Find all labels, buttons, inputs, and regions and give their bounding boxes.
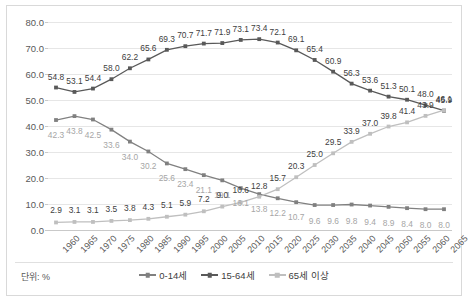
series-line-2	[56, 110, 444, 222]
series-marker	[424, 207, 428, 211]
series-marker	[220, 205, 224, 209]
series-marker	[54, 221, 58, 225]
series-marker	[368, 204, 372, 208]
series-line-0	[56, 116, 444, 209]
plot-area: 0.010.020.030.040.050.060.070.080.0 42.3…	[48, 22, 452, 230]
series-marker	[54, 86, 58, 90]
x-axis-tick-label: 2000	[208, 233, 229, 254]
series-marker	[110, 128, 114, 132]
x-axis-tick-label: 2045	[375, 233, 396, 254]
series-marker	[276, 187, 280, 191]
x-axis-tick-label: 2015	[264, 233, 285, 254]
series-marker	[313, 203, 317, 207]
series-marker	[294, 200, 298, 204]
series-line-1	[56, 39, 444, 111]
series-marker	[239, 201, 243, 205]
series-marker	[146, 58, 150, 62]
series-marker	[313, 58, 317, 62]
x-axis-tick-label: 2025	[301, 233, 322, 254]
series-marker	[202, 209, 206, 213]
series-marker	[73, 90, 77, 94]
series-marker	[276, 196, 280, 200]
series-marker	[405, 206, 409, 210]
legend-item-2[interactable]: 65세 이상	[269, 268, 329, 282]
y-axis-tick-label: 10.0	[26, 199, 45, 210]
series-marker	[165, 215, 169, 219]
x-axis-tick-label: 1970	[97, 233, 118, 254]
x-axis-tick-label: 2010	[245, 233, 266, 254]
x-axis-tick-label: 1965	[79, 233, 100, 254]
series-marker	[331, 70, 335, 74]
footer-divider	[15, 262, 453, 263]
series-marker	[387, 95, 391, 99]
x-axis-tick-label: 2005	[227, 233, 248, 254]
series-marker	[424, 114, 428, 118]
series-marker	[202, 173, 206, 177]
x-axis-tick-label: 2040	[356, 233, 377, 254]
legend-item-1[interactable]: 15-64세	[201, 268, 254, 282]
series-marker	[331, 203, 335, 207]
series-marker	[110, 77, 114, 81]
x-axis-labels: 1960196519701975198019851990199520002005…	[48, 232, 452, 270]
series-marker	[313, 163, 317, 167]
y-axis-tick-label: 20.0	[26, 173, 45, 184]
gridline	[48, 230, 452, 231]
x-axis-tick-label: 1980	[134, 233, 155, 254]
series-marker	[165, 162, 169, 166]
x-axis-tick-label: 1995	[190, 233, 211, 254]
series-marker	[183, 213, 187, 217]
series-marker	[368, 89, 372, 93]
series-marker	[387, 125, 391, 129]
series-marker	[405, 98, 409, 102]
x-axis-tick-label: 1985	[153, 233, 174, 254]
legend-item-0[interactable]: 0-14세	[139, 268, 187, 282]
series-lines	[48, 22, 452, 230]
series-marker	[183, 167, 187, 171]
series-marker	[368, 132, 372, 136]
series-marker	[276, 41, 280, 45]
series-marker	[239, 38, 243, 42]
x-axis-tick-label: 1975	[116, 233, 137, 254]
legend-label: 0-14세	[159, 268, 187, 282]
series-marker	[350, 140, 354, 144]
series-marker	[220, 41, 224, 45]
x-axis-tick-label: 2065	[448, 233, 468, 254]
y-axis-tick-label: 0.0	[31, 225, 44, 236]
y-axis-tick-label: 50.0	[26, 95, 45, 106]
series-marker	[183, 44, 187, 48]
y-axis-tick-label: 80.0	[26, 17, 45, 28]
series-marker	[294, 48, 298, 52]
series-marker	[73, 114, 77, 118]
x-axis-tick-label: 2060	[430, 233, 451, 254]
series-marker	[146, 150, 150, 154]
series-marker	[405, 120, 409, 124]
series-marker	[91, 220, 95, 224]
series-marker	[294, 175, 298, 179]
x-axis-tick-label: 2030	[319, 233, 340, 254]
series-marker	[128, 218, 132, 222]
series-marker	[128, 140, 132, 144]
chart-legend: 0-14세15-64세65세 이상	[7, 268, 461, 282]
y-axis-tick-mark	[45, 230, 48, 231]
y-axis-tick-label: 60.0	[26, 69, 45, 80]
x-axis-tick-label: 2050	[393, 233, 414, 254]
series-marker	[387, 205, 391, 209]
x-axis-tick-label: 1960	[60, 233, 81, 254]
series-marker	[128, 66, 132, 70]
x-axis-tick-label: 2055	[411, 233, 432, 254]
series-marker	[442, 207, 446, 211]
series-marker	[165, 48, 169, 52]
y-axis-tick-label: 40.0	[26, 121, 45, 132]
series-marker	[110, 219, 114, 223]
series-marker	[91, 118, 95, 122]
series-marker	[146, 217, 150, 221]
series-marker	[257, 195, 261, 199]
series-marker	[91, 87, 95, 91]
legend-label: 15-64세	[221, 268, 254, 282]
legend-label: 65세 이상	[289, 268, 329, 282]
series-marker	[220, 178, 224, 182]
series-marker	[239, 186, 243, 190]
legend-swatch-icon	[139, 274, 156, 276]
series-marker	[202, 42, 206, 46]
series-marker	[442, 108, 446, 112]
